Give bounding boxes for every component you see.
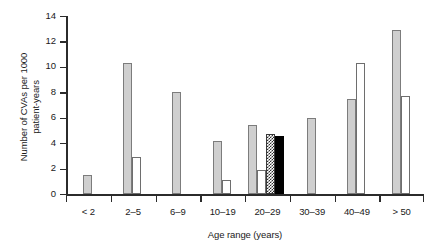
x-axis-tick — [290, 195, 291, 202]
bar — [347, 99, 356, 194]
bar-series-layer — [66, 16, 424, 194]
x-axis-category-label: 20–29 — [245, 206, 290, 217]
y-axis-tick-label: 12 — [45, 35, 56, 46]
chart-figure: Number of CVAs per 1000 patient-years 02… — [0, 0, 430, 249]
bar — [222, 180, 231, 194]
y-axis-tick-label: 10 — [45, 60, 56, 71]
bar — [213, 141, 222, 194]
y-axis-tick-label: 6 — [51, 111, 56, 122]
x-axis-tick — [245, 195, 246, 202]
bar — [392, 30, 401, 194]
x-axis-tick — [423, 195, 424, 202]
bar — [356, 63, 365, 194]
x-axis-tick — [200, 195, 201, 202]
bar — [257, 170, 266, 194]
bar — [123, 63, 132, 194]
bar — [248, 125, 257, 194]
x-axis-title: Age range (years) — [60, 229, 430, 240]
y-axis-tick-label: 2 — [51, 162, 56, 173]
y-axis-tick-label: 8 — [51, 86, 56, 97]
x-axis-category-label: 6–9 — [156, 206, 201, 217]
y-axis-tick-label: 0 — [51, 188, 56, 199]
x-axis-category-label: > 50 — [379, 206, 424, 217]
bar — [307, 118, 316, 194]
x-axis-tick — [379, 195, 380, 202]
x-axis-tick — [111, 195, 112, 202]
x-axis-category-label: 10–19 — [200, 206, 245, 217]
x-axis-tick — [335, 195, 336, 202]
bar — [266, 134, 275, 194]
x-axis-tick — [66, 195, 67, 202]
x-axis-tick — [156, 195, 157, 202]
x-axis-category-label: 40–49 — [335, 206, 380, 217]
bar — [401, 96, 410, 194]
y-axis-title: Number of CVAs per 1000 patient-years — [18, 7, 42, 207]
x-axis-category-label: 2–5 — [111, 206, 156, 217]
y-axis-tick-label: 4 — [51, 137, 56, 148]
bar — [132, 157, 141, 194]
y-axis-tick-label: 14 — [45, 10, 56, 21]
x-axis-category-label: < 2 — [66, 206, 111, 217]
bar — [275, 136, 284, 194]
bar — [83, 175, 92, 194]
bar — [172, 92, 181, 194]
x-axis-category-label: 30–39 — [290, 206, 335, 217]
plot-area: 02468101214 < 22–56–910–1920–2930–3940–4… — [66, 16, 424, 194]
